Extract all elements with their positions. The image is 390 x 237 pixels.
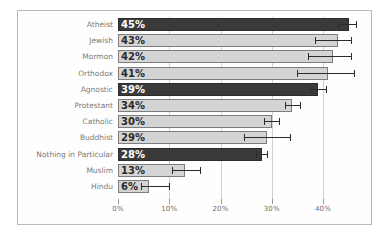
bar-value-label: 42% <box>121 49 145 64</box>
bar-value-label: 39% <box>121 82 145 97</box>
error-bar-cap <box>290 134 291 141</box>
category-label: Mormon <box>82 49 113 64</box>
x-axis-tick-label: 30% <box>264 205 280 213</box>
x-axis-tick <box>169 199 170 204</box>
bar-value-label: 13% <box>121 163 145 178</box>
error-bar-cap <box>351 37 352 44</box>
category-label: Orthodox <box>78 66 113 81</box>
error-bar-cap <box>315 37 316 44</box>
category-label: Nothing in Particular <box>36 147 113 162</box>
error-bar <box>297 73 353 74</box>
chart-figure: 0%10%20%30%40%Atheist45%Jewish43%Mormon4… <box>17 10 372 225</box>
error-bar-cap <box>279 118 280 125</box>
x-axis-tick <box>272 199 273 204</box>
x-axis-tick-label: 20% <box>212 205 228 213</box>
error-bar <box>141 186 169 187</box>
error-bar-cap <box>356 21 357 28</box>
x-axis-tick-label: 10% <box>161 205 177 213</box>
chart-bar-row: Catholic30% <box>18 114 371 129</box>
category-label: Buddhist <box>80 130 113 145</box>
category-label: Agnostic <box>81 82 113 97</box>
bar-value-label: 45% <box>121 17 145 32</box>
chart-bar-row: Mormon42% <box>18 49 371 64</box>
bar-value-label: 41% <box>121 66 145 81</box>
category-label: Atheist <box>87 17 113 32</box>
x-axis-tick-label: 0% <box>112 205 124 213</box>
error-bar <box>308 56 352 57</box>
bar-value-label: 34% <box>121 98 145 113</box>
error-bar-cap <box>267 151 268 158</box>
error-bar <box>264 121 279 122</box>
error-bar <box>310 89 325 90</box>
chart-bar-row: Muslim13% <box>18 163 371 178</box>
category-label: Jewish <box>89 33 113 48</box>
chart-bar-row: Jewish43% <box>18 33 371 48</box>
category-label: Muslim <box>86 163 113 178</box>
error-bar <box>256 154 266 155</box>
bar <box>118 18 349 31</box>
error-bar <box>315 40 351 41</box>
error-bar-cap <box>169 183 170 190</box>
error-bar-cap <box>310 86 311 93</box>
plot-area: 0%10%20%30%40%Atheist45%Jewish43%Mormon4… <box>18 11 371 224</box>
error-bar-cap <box>354 70 355 77</box>
error-bar <box>244 137 290 138</box>
error-bar-cap <box>172 167 173 174</box>
bar <box>118 83 318 96</box>
error-bar-cap <box>297 70 298 77</box>
error-bar-cap <box>244 134 245 141</box>
chart-bar-row: Hindu6% <box>18 179 371 194</box>
bar-value-label: 43% <box>121 33 145 48</box>
error-bar-cap <box>326 86 327 93</box>
bar-value-label: 30% <box>121 114 145 129</box>
error-bar-cap <box>264 118 265 125</box>
error-bar-cap <box>351 53 352 60</box>
chart-bar-row: Protestant34% <box>18 98 371 113</box>
bar-value-label: 29% <box>121 130 145 145</box>
x-axis-tick <box>323 199 324 204</box>
chart-bar-row: Agnostic39% <box>18 82 371 97</box>
chart-bar-row: Atheist45% <box>18 17 371 32</box>
error-bar-cap <box>300 102 301 109</box>
error-bar-cap <box>338 21 339 28</box>
chart-bar-row: Buddhist29% <box>18 130 371 145</box>
bar <box>118 50 333 63</box>
error-bar <box>285 105 300 106</box>
chart-bar-row: Orthodox41% <box>18 66 371 81</box>
chart-bar-row: Nothing in Particular28% <box>18 147 371 162</box>
x-axis-tick <box>221 199 222 204</box>
category-label: Protestant <box>74 98 113 113</box>
category-label: Catholic <box>83 114 113 129</box>
x-axis-tick-label: 40% <box>315 205 331 213</box>
x-axis-tick <box>118 199 119 204</box>
error-bar-cap <box>200 167 201 174</box>
error-bar <box>338 24 356 25</box>
category-label: Hindu <box>91 179 113 194</box>
bar-value-label: 6% <box>121 179 138 194</box>
error-bar-cap <box>285 102 286 109</box>
error-bar-cap <box>308 53 309 60</box>
error-bar-cap <box>256 151 257 158</box>
error-bar <box>172 170 200 171</box>
bar-value-label: 28% <box>121 147 145 162</box>
error-bar-cap <box>141 183 142 190</box>
bar <box>118 34 338 47</box>
